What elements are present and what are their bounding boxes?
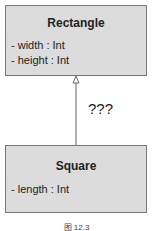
figure-caption: 图 12.3 <box>0 221 153 231</box>
square-class-box: Square - length : Int <box>5 145 147 213</box>
class-name: Square <box>6 159 146 173</box>
hollow-arrowhead-icon <box>73 76 79 83</box>
relation-label: ??? <box>88 100 113 117</box>
attribute: - length : Int <box>11 183 69 195</box>
